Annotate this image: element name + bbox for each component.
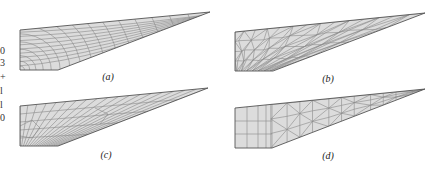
margin-fragment: + xyxy=(0,72,6,82)
panel-label-d: (d) xyxy=(322,150,334,161)
margin-fragment: 0 xyxy=(0,113,5,123)
margin-fragment: l xyxy=(0,86,3,96)
mesh-figure xyxy=(0,0,440,171)
panel-label-a: (a) xyxy=(102,71,114,82)
panel-label-b: (b) xyxy=(322,73,334,84)
panel-b-mesh xyxy=(235,13,425,71)
panel-d-mesh xyxy=(235,89,425,148)
panel-c-mesh xyxy=(20,88,208,146)
margin-fragment: l xyxy=(0,100,3,110)
panel-label-c: (c) xyxy=(100,149,111,160)
margin-fragment: 3 xyxy=(0,58,5,68)
margin-fragment: 0 xyxy=(0,46,5,56)
